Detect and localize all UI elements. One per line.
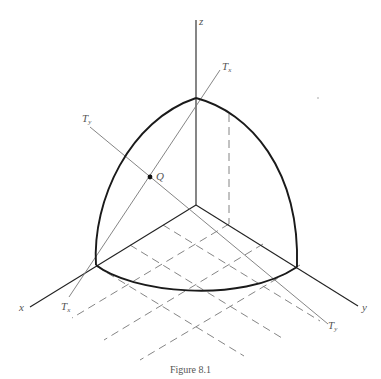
label-tx-bottom: Tx <box>61 300 71 314</box>
grid-line-x-3 <box>140 265 300 360</box>
labels: z x y Q Tx Tx Ty Ty <box>18 15 367 333</box>
label-y: y <box>361 301 367 313</box>
x-axis <box>30 205 196 307</box>
octant-sphere-diagram: z x y Q Tx Tx Ty Ty <box>0 0 381 379</box>
label-q: Q <box>156 170 164 182</box>
arc-yz <box>196 98 297 267</box>
grid-line-x-1 <box>72 224 229 318</box>
label-ty-bottom: Ty <box>328 319 338 333</box>
label-x: x <box>18 301 24 313</box>
figure-caption: Figure 8.1 <box>0 364 381 375</box>
grid-line-x-2 <box>104 244 263 340</box>
label-z: z <box>198 15 204 27</box>
point-q <box>148 175 153 180</box>
tangent-line-tx <box>69 70 220 297</box>
axes <box>30 20 358 307</box>
label-ty-top: Ty <box>82 112 92 126</box>
grid-line-y-3 <box>96 266 244 356</box>
label-tx-top: Tx <box>222 60 232 74</box>
stray-dot <box>317 97 318 98</box>
arc-xy <box>96 265 297 291</box>
